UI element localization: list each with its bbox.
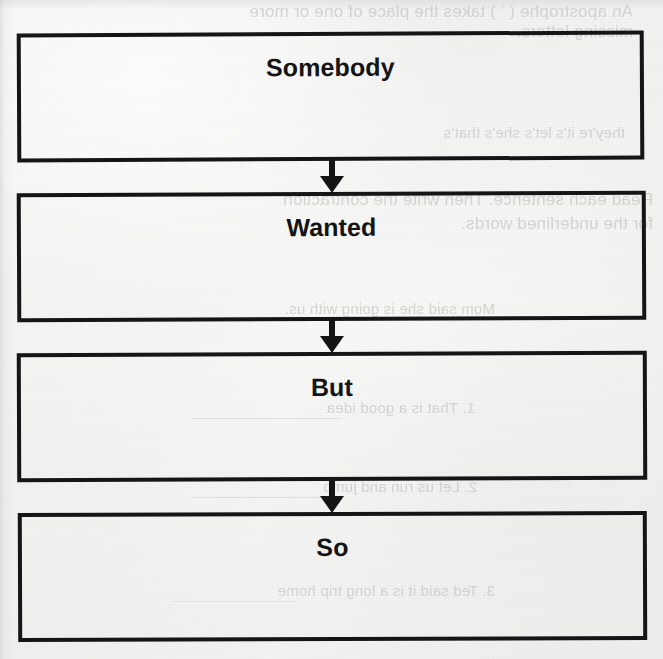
arrow-head-icon bbox=[320, 496, 344, 513]
arrow-head-icon bbox=[320, 336, 344, 353]
arrow-but-to-so bbox=[317, 480, 347, 513]
swbs-box-somebody[interactable]: Somebody bbox=[17, 30, 645, 162]
swbs-box-so[interactable]: So bbox=[18, 511, 647, 642]
swbs-box-label-but: But bbox=[21, 372, 643, 403]
arrow-head-icon bbox=[320, 176, 344, 193]
swbs-box-wanted[interactable]: Wanted bbox=[17, 191, 647, 323]
arrow-wanted-to-but bbox=[317, 320, 347, 353]
scanned-page: An apostrophe ( ' ) takes the place of o… bbox=[0, 0, 663, 659]
swbs-box-label-wanted: Wanted bbox=[21, 212, 642, 244]
swbs-box-but[interactable]: But bbox=[17, 351, 647, 482]
swbs-flowchart: Somebody Wanted But So bbox=[0, 0, 663, 659]
arrow-somebody-to-wanted bbox=[317, 160, 347, 193]
swbs-box-label-so: So bbox=[22, 532, 643, 563]
swbs-box-label-somebody: Somebody bbox=[21, 51, 640, 83]
